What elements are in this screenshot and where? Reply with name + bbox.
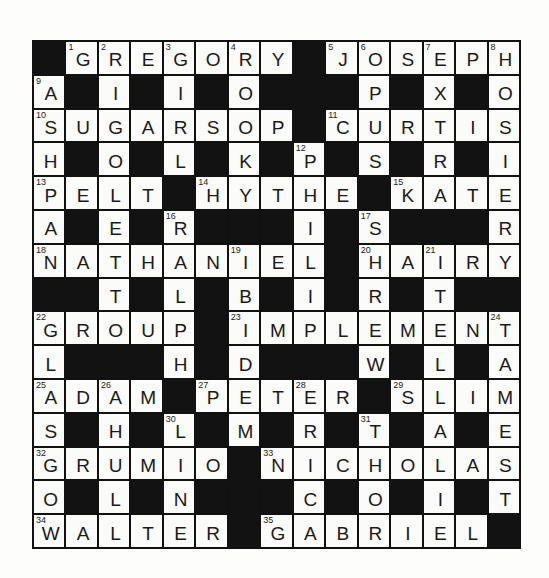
letter-cell[interactable]: O <box>99 143 129 175</box>
letter-cell[interactable]: 33N <box>261 448 291 480</box>
letter-cell[interactable]: I <box>424 481 454 513</box>
letter-cell[interactable]: O <box>489 76 519 108</box>
letter-cell[interactable]: P <box>456 42 486 74</box>
letter-cell[interactable]: A <box>131 110 161 142</box>
letter-cell[interactable]: 28E <box>294 380 324 412</box>
letter-cell[interactable]: R <box>164 110 194 142</box>
letter-cell[interactable]: I <box>294 211 324 243</box>
letter-cell[interactable]: 17S <box>359 211 389 243</box>
letter-cell[interactable]: C <box>294 481 324 513</box>
letter-cell[interactable]: P <box>359 76 389 108</box>
letter-cell[interactable]: R <box>359 515 389 547</box>
letter-cell[interactable]: T <box>261 177 291 209</box>
letter-cell[interactable]: T <box>99 245 129 277</box>
letter-cell[interactable]: P <box>294 312 324 344</box>
letter-cell[interactable]: E <box>326 177 356 209</box>
letter-cell[interactable]: 12P <box>294 143 324 175</box>
letter-cell[interactable]: N <box>456 312 486 344</box>
letter-cell[interactable]: E <box>261 245 291 277</box>
letter-cell[interactable]: 6O <box>359 42 389 74</box>
letter-cell[interactable]: L <box>424 380 454 412</box>
letter-cell[interactable]: T <box>131 177 161 209</box>
letter-cell[interactable]: 5J <box>326 42 356 74</box>
letter-cell[interactable]: O <box>359 481 389 513</box>
letter-cell[interactable]: I <box>164 448 194 480</box>
letter-cell[interactable]: 10S <box>34 110 64 142</box>
letter-cell[interactable]: L <box>164 143 194 175</box>
letter-cell[interactable]: L <box>294 245 324 277</box>
letter-cell[interactable]: N <box>164 481 194 513</box>
letter-cell[interactable]: E <box>489 177 519 209</box>
letter-cell[interactable]: 34W <box>34 515 64 547</box>
letter-cell[interactable]: H <box>359 448 389 480</box>
letter-cell[interactable]: I <box>456 380 486 412</box>
letter-cell[interactable]: 29S <box>391 380 421 412</box>
letter-cell[interactable]: O <box>229 76 259 108</box>
letter-cell[interactable]: 26A <box>99 380 129 412</box>
letter-cell[interactable]: M <box>261 312 291 344</box>
letter-cell[interactable]: D <box>229 346 259 378</box>
letter-cell[interactable]: H <box>131 245 161 277</box>
letter-cell[interactable]: O <box>196 42 226 74</box>
letter-cell[interactable]: T <box>456 177 486 209</box>
letter-cell[interactable]: P <box>164 312 194 344</box>
letter-cell[interactable]: Y <box>229 177 259 209</box>
letter-cell[interactable]: M <box>489 380 519 412</box>
letter-cell[interactable]: O <box>391 448 421 480</box>
letter-cell[interactable]: H <box>294 177 324 209</box>
letter-cell[interactable]: E <box>424 312 454 344</box>
letter-cell[interactable]: 21I <box>424 245 454 277</box>
letter-cell[interactable]: U <box>66 110 96 142</box>
letter-cell[interactable]: I <box>99 76 129 108</box>
letter-cell[interactable]: A <box>66 245 96 277</box>
letter-cell[interactable]: H <box>164 346 194 378</box>
letter-cell[interactable]: T <box>424 279 454 311</box>
letter-cell[interactable]: R <box>391 110 421 142</box>
letter-cell[interactable]: 9A <box>34 76 64 108</box>
letter-cell[interactable]: R <box>326 380 356 412</box>
letter-cell[interactable]: 30L <box>164 414 194 446</box>
letter-cell[interactable]: L <box>99 515 129 547</box>
letter-cell[interactable]: L <box>34 346 64 378</box>
letter-cell[interactable]: S <box>359 143 389 175</box>
letter-cell[interactable]: A <box>294 515 324 547</box>
letter-cell[interactable]: A <box>424 177 454 209</box>
letter-cell[interactable]: 3G <box>164 42 194 74</box>
letter-cell[interactable]: M <box>391 312 421 344</box>
letter-cell[interactable]: O <box>99 312 129 344</box>
letter-cell[interactable]: I <box>294 448 324 480</box>
letter-cell[interactable]: 24T <box>489 312 519 344</box>
letter-cell[interactable]: W <box>359 346 389 378</box>
letter-cell[interactable]: A <box>424 414 454 446</box>
letter-cell[interactable]: H <box>99 414 129 446</box>
letter-cell[interactable]: H <box>34 143 64 175</box>
letter-cell[interactable]: T <box>261 380 291 412</box>
letter-cell[interactable]: A <box>66 515 96 547</box>
letter-cell[interactable]: 18N <box>34 245 64 277</box>
letter-cell[interactable]: A <box>34 211 64 243</box>
letter-cell[interactable]: B <box>229 279 259 311</box>
letter-cell[interactable]: 20H <box>359 245 389 277</box>
letter-cell[interactable]: I <box>456 110 486 142</box>
letter-cell[interactable]: S <box>196 110 226 142</box>
letter-cell[interactable]: 22G <box>34 312 64 344</box>
letter-cell[interactable]: G <box>99 110 129 142</box>
letter-cell[interactable]: M <box>131 448 161 480</box>
letter-cell[interactable]: 11C <box>326 110 356 142</box>
letter-cell[interactable]: R <box>424 143 454 175</box>
letter-cell[interactable]: E <box>164 515 194 547</box>
letter-cell[interactable]: O <box>34 481 64 513</box>
letter-cell[interactable]: C <box>326 448 356 480</box>
letter-cell[interactable]: 13P <box>34 177 64 209</box>
letter-cell[interactable]: E <box>99 211 129 243</box>
letter-cell[interactable]: O <box>229 110 259 142</box>
letter-cell[interactable]: S <box>489 110 519 142</box>
letter-cell[interactable]: M <box>131 380 161 412</box>
letter-cell[interactable]: I <box>391 515 421 547</box>
letter-cell[interactable]: L <box>326 312 356 344</box>
letter-cell[interactable]: E <box>489 414 519 446</box>
letter-cell[interactable]: A <box>391 245 421 277</box>
letter-cell[interactable]: R <box>489 211 519 243</box>
letter-cell[interactable]: Y <box>261 42 291 74</box>
letter-cell[interactable]: Y <box>489 245 519 277</box>
